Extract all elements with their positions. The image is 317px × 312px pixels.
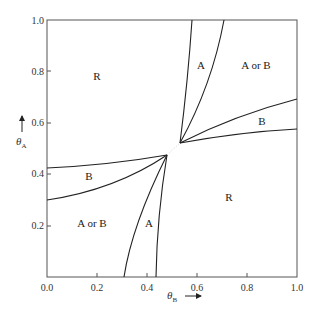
y-axis-subscript: A bbox=[21, 142, 26, 150]
svg-text:θB: θB bbox=[167, 289, 177, 304]
y-ticks bbox=[47, 71, 51, 226]
region-label-a-bottom: A bbox=[145, 217, 153, 229]
y-tick-label: 0.4 bbox=[32, 168, 45, 179]
y-tick-label: 0.6 bbox=[32, 117, 45, 128]
phase-diagram: 0.0 0.2 0.4 0.6 0.8 1.0 0.2 0.4 0.6 0.8 … bbox=[0, 0, 317, 312]
region-label-r-bottom: R bbox=[225, 191, 233, 203]
x-tick-label: 0.4 bbox=[141, 282, 154, 293]
focal-connector bbox=[167, 143, 180, 155]
region-label-r-top: R bbox=[93, 70, 101, 82]
y-tick-label: 1.0 bbox=[32, 15, 45, 26]
x-tick-label: 1.0 bbox=[291, 282, 304, 293]
y-tick-label: 0.8 bbox=[32, 66, 45, 77]
x-tick-label: 0.6 bbox=[191, 282, 204, 293]
x-tick-label: 0.2 bbox=[91, 282, 104, 293]
x-axis-subscript: B bbox=[172, 296, 177, 304]
region-label-a-top: A bbox=[197, 59, 205, 71]
x-tick-label: 0.8 bbox=[241, 282, 254, 293]
boundary-curves-lower bbox=[47, 155, 167, 277]
x-tick-label: 0.0 bbox=[41, 282, 54, 293]
y-tick-label: 0.2 bbox=[32, 220, 45, 231]
region-label-a-or-b-top: A or B bbox=[241, 59, 270, 71]
region-label-b-right: B bbox=[258, 115, 265, 127]
boundary-curves-upper bbox=[180, 20, 297, 143]
svg-text:θA: θA bbox=[16, 135, 26, 150]
region-label-b-left: B bbox=[85, 170, 92, 182]
x-ticks bbox=[97, 273, 247, 277]
y-axis-label: θA bbox=[16, 116, 26, 150]
region-label-a-or-b-bottom: A or B bbox=[77, 217, 106, 229]
